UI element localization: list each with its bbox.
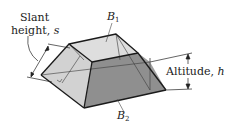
top-base-label: B1 xyxy=(107,11,120,24)
slant-label-line1: Slant xyxy=(20,12,49,23)
bottom-base-label: B2 xyxy=(117,110,130,123)
altitude-label: Altitude, h xyxy=(166,66,225,77)
slant-label-line2: height, s xyxy=(11,25,59,36)
